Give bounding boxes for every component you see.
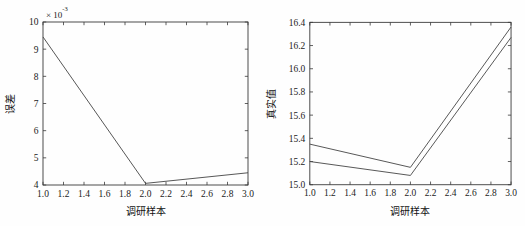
y-tick-label: 9 (34, 45, 39, 55)
plot-box-truth-plot (310, 22, 511, 184)
series-line-1 (43, 37, 248, 183)
x-tick-label: 1.4 (344, 188, 356, 198)
x-tick-label: 1.0 (37, 189, 49, 199)
y-tick-label: 7 (34, 99, 39, 109)
x-tick-label: 1.8 (119, 189, 131, 199)
truth-chart-svg: 1.01.21.41.61.82.02.22.42.62.83.015.015.… (262, 0, 524, 226)
x-tick-label: 2.8 (222, 189, 234, 199)
y-tick-label: 16.2 (289, 41, 306, 51)
truth-chart-panel: 1.01.21.41.61.82.02.22.42.62.83.015.015.… (262, 0, 524, 226)
x-tick-label: 1.6 (364, 188, 376, 198)
series-line-1 (310, 27, 511, 167)
x-tick-label: 2.6 (465, 188, 477, 198)
y-tick-label: 4 (34, 180, 39, 190)
y-tick-label: 15.2 (289, 157, 306, 167)
error-chart-panel: 1.01.21.41.61.82.02.22.42.62.83.04567891… (0, 0, 262, 226)
x-tick-label: 2.0 (405, 188, 417, 198)
x-tick-label: 2.0 (140, 189, 152, 199)
x-tick-label: 1.6 (99, 189, 111, 199)
x-tick-label: 2.6 (201, 189, 213, 199)
x-tick-label: 2.8 (485, 188, 497, 198)
y-tick-label: 15.0 (289, 180, 306, 190)
x-tick-label: 2.4 (181, 189, 193, 199)
y-axis-exponent-label: × 10-3 (46, 5, 68, 20)
error-chart-svg: 1.01.21.41.61.82.02.22.42.62.83.04567891… (0, 0, 262, 226)
x-axis-title: 调研样本 (390, 205, 430, 217)
y-tick-label: 8 (34, 72, 39, 82)
y-tick-label: 15.8 (289, 87, 306, 97)
x-tick-label: 1.4 (78, 189, 90, 199)
y-tick-label: 16.4 (289, 18, 306, 28)
y-tick-label: 16.0 (289, 64, 306, 74)
x-tick-label: 2.4 (445, 188, 457, 198)
x-tick-label: 2.2 (425, 188, 437, 198)
y-tick-label: 15.4 (289, 134, 306, 144)
x-tick-label: 2.2 (160, 189, 172, 199)
x-tick-label: 3.0 (505, 188, 517, 198)
y-tick-label: 6 (34, 126, 39, 136)
series-line-2 (310, 37, 511, 175)
x-axis-title: 调研样本 (126, 205, 166, 217)
x-tick-label: 1.2 (58, 189, 70, 199)
figure-container: 1.01.21.41.61.82.02.22.42.62.83.04567891… (0, 0, 525, 226)
x-tick-label: 1.8 (384, 188, 396, 198)
y-axis-title: 误差 (4, 94, 16, 114)
y-tick-label: 5 (34, 153, 39, 163)
x-tick-label: 1.0 (304, 188, 316, 198)
x-tick-label: 3.0 (242, 189, 254, 199)
y-tick-label: 10 (29, 17, 39, 27)
plot-box-error-plot (43, 22, 248, 185)
y-tick-label: 15.6 (289, 111, 306, 121)
x-tick-label: 1.2 (324, 188, 336, 198)
y-axis-title: 真实值 (265, 89, 277, 119)
